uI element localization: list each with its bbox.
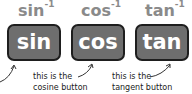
- cosine-annotation: this is the cosine button: [33, 71, 88, 93]
- annotation-line: this is the: [112, 71, 172, 82]
- annotation-line: this is the: [33, 71, 88, 82]
- tangent-annotation: this is the tangent button: [112, 71, 172, 93]
- annotation-line: cosine button: [33, 82, 88, 93]
- annotation-line: tangent button: [112, 82, 172, 93]
